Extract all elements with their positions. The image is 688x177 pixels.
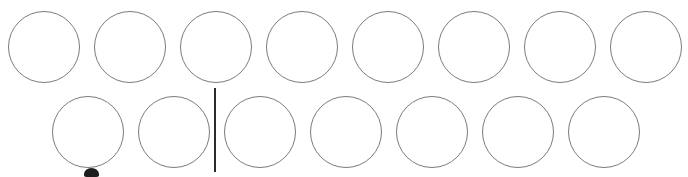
circle-glyph xyxy=(52,96,124,168)
circle-glyph xyxy=(438,11,510,83)
circle-glyph xyxy=(352,11,424,83)
circle-glyph xyxy=(610,11,682,83)
glyph-row-2 xyxy=(0,96,688,168)
circle-glyph xyxy=(94,11,166,83)
circle-glyph xyxy=(482,96,554,168)
circle-glyph xyxy=(138,96,210,168)
circle-glyph xyxy=(224,96,296,168)
glyph-row-1 xyxy=(0,11,688,83)
text-caret[interactable] xyxy=(214,88,216,172)
handwriting-canvas[interactable]: Blank white writing surface with two row… xyxy=(0,0,688,177)
partial-glyph-fragment xyxy=(84,168,99,177)
circle-glyph xyxy=(8,11,80,83)
circle-glyph xyxy=(396,96,468,168)
circle-glyph xyxy=(180,11,252,83)
circle-glyph xyxy=(310,96,382,168)
circle-glyph xyxy=(568,96,640,168)
circle-glyph xyxy=(266,11,338,83)
circle-glyph xyxy=(524,11,596,83)
